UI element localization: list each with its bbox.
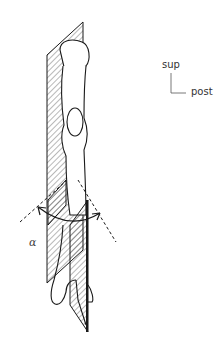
angle-alpha-label: α <box>29 237 36 248</box>
orientation-posterior-label: post <box>191 87 213 97</box>
orientation-indicator <box>171 73 186 93</box>
bone-diagram <box>0 0 219 352</box>
orientation-superior-label: sup <box>162 60 180 70</box>
